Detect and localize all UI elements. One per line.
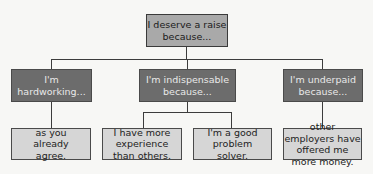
connector-to-indispensable — [187, 59, 188, 69]
leaf-node-more-experience: I have more experience than others. — [102, 128, 182, 160]
connector-to-experience — [143, 112, 144, 128]
branch-node-underpaid: I'm underpaid because... — [283, 69, 363, 102]
leaf-node-text: I have more experience than others. — [103, 127, 181, 162]
connector-to-underpaid — [322, 59, 323, 69]
branch-node-text: I'm underpaid because... — [284, 74, 362, 97]
connector-hardworking-down — [51, 101, 52, 128]
connector-indispensable-bar — [143, 112, 232, 113]
leaf-node-problem-solver: I'm a good problem solver. — [193, 128, 272, 160]
leaf-node-already-agree: as you already agree. — [11, 128, 91, 160]
branch-node-text: I'm indispensable because... — [140, 74, 235, 97]
root-node-text: I deserve a raise because... — [147, 19, 227, 42]
leaf-node-text: I'm a good problem solver. — [194, 127, 271, 162]
connector-indispensable-down — [187, 101, 188, 112]
connector-to-problem-solver — [231, 112, 232, 128]
branch-node-text: I'm hardworking... — [5, 74, 97, 97]
root-node: I deserve a raise because... — [146, 14, 228, 47]
branch-node-hardworking: I'm hardworking... — [11, 69, 92, 102]
branch-node-indispensable: I'm indispensable because... — [139, 69, 236, 102]
leaf-node-text: other employers have offered me more mon… — [284, 121, 361, 167]
connector-root-down — [186, 46, 187, 59]
leaf-node-other-employers: other employers have offered me more mon… — [283, 128, 362, 160]
leaf-node-text: as you already agree. — [12, 127, 90, 162]
connector-to-hardworking — [51, 59, 52, 69]
